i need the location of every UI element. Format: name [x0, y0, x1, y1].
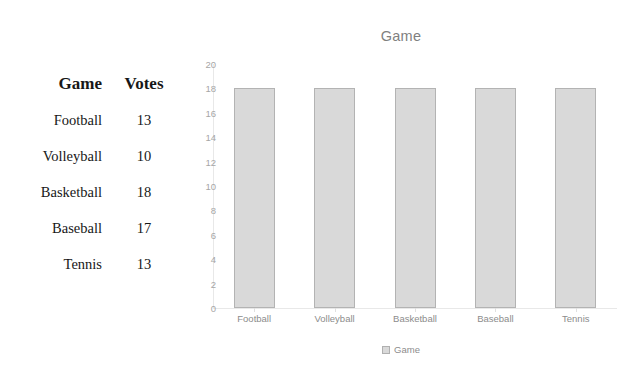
cell-game: Football — [0, 102, 112, 138]
x-axis-tick — [254, 308, 255, 312]
table-row: Volleyball10 — [0, 138, 176, 174]
x-axis-category-label: Volleyball — [294, 313, 374, 324]
cell-votes: 13 — [112, 102, 176, 138]
y-axis-tick-label: 14 — [186, 132, 216, 143]
x-axis-tick — [335, 308, 336, 312]
cell-game: Baseball — [0, 210, 112, 246]
x-axis-category-label: Football — [214, 313, 294, 324]
x-axis-tick — [495, 308, 496, 312]
y-axis-tick-label: 18 — [186, 83, 216, 94]
table-row: Basketball18 — [0, 174, 176, 210]
y-axis-tick-label: 2 — [186, 278, 216, 289]
legend-label-game: Game — [394, 344, 420, 355]
y-axis-tick-label: 0 — [186, 303, 216, 314]
bar-tennis[interactable] — [555, 88, 596, 308]
column-header-votes: Votes — [112, 66, 176, 102]
chart-legend: Game — [176, 344, 626, 355]
cell-game: Volleyball — [0, 138, 112, 174]
y-axis-tick-label: 6 — [186, 229, 216, 240]
bar-football[interactable] — [234, 88, 275, 308]
y-axis-tick-label: 12 — [186, 156, 216, 167]
cell-votes: 17 — [112, 210, 176, 246]
table-body: Football13Volleyball10Basketball18Baseba… — [0, 102, 176, 282]
bar-volleyball[interactable] — [314, 88, 355, 308]
table: Game Votes Football13Volleyball10Basketb… — [0, 66, 176, 282]
table-header-row: Game Votes — [0, 66, 176, 102]
votes-table: Game Votes Football13Volleyball10Basketb… — [0, 66, 176, 282]
y-axis-tick-label: 20 — [186, 59, 216, 70]
bar-chart: Game 02468101214161820FootballVolleyball… — [176, 0, 626, 383]
cell-votes: 18 — [112, 174, 176, 210]
table-head: Game Votes — [0, 66, 176, 102]
bar-basketball[interactable] — [395, 88, 436, 308]
y-axis-tick-label: 4 — [186, 254, 216, 265]
legend-swatch-game — [382, 346, 390, 354]
column-header-game: Game — [0, 66, 112, 102]
x-axis-category-label: Tennis — [536, 313, 616, 324]
x-axis-category-label: Baseball — [455, 313, 535, 324]
y-axis-tick-label: 10 — [186, 181, 216, 192]
bar-baseball[interactable] — [475, 88, 516, 308]
y-axis-tick-label: 16 — [186, 107, 216, 118]
table-row: Baseball17 — [0, 210, 176, 246]
cell-game: Basketball — [0, 174, 112, 210]
cell-game: Tennis — [0, 246, 112, 282]
table-row: Tennis13 — [0, 246, 176, 282]
x-axis-category-label: Basketball — [375, 313, 455, 324]
plot-area: 02468101214161820FootballVolleyballBaske… — [176, 0, 626, 383]
y-axis-tick-label: 8 — [186, 205, 216, 216]
cell-votes: 10 — [112, 138, 176, 174]
table-row: Football13 — [0, 102, 176, 138]
cell-votes: 13 — [112, 246, 176, 282]
x-axis-tick — [415, 308, 416, 312]
x-axis-tick — [576, 308, 577, 312]
